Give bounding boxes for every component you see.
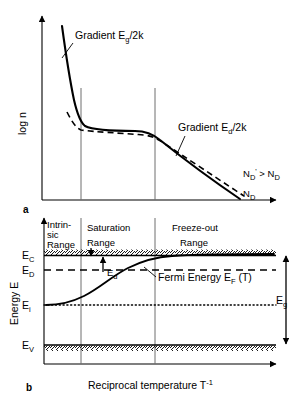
region-label-freezeout-line1: Freeze-out [172, 222, 218, 233]
region-label-saturation-line1: Saturation [87, 222, 130, 233]
region-label-intrinsic-line3: Range [47, 239, 75, 250]
panel-b-label: b [26, 382, 32, 393]
panel-a-label: a [23, 204, 29, 215]
figure-container: Gradient Eg/2k Gradient Ed/2k ND' > ND N… [0, 0, 307, 407]
region-label-freezeout-line2: Range [180, 237, 208, 248]
valence-band-hatch [44, 346, 276, 352]
panel-b-y-axis-label: Energy E [8, 282, 20, 325]
region-label-saturation-line2: Range [87, 237, 115, 248]
semiconductor-figure: Gradient Eg/2k Gradient Ed/2k ND' > ND N… [0, 0, 307, 407]
panel-a-y-axis-label: log n [16, 112, 28, 135]
panel-b-x-axis-label: Reciprocal temperature T-1 [88, 378, 213, 391]
